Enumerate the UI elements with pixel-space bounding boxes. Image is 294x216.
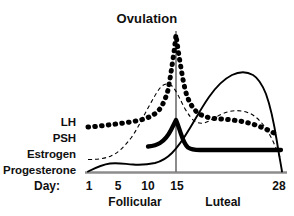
legend-label-lh: LH bbox=[61, 117, 76, 129]
legend-label-estrogen: Estrogen bbox=[27, 149, 76, 161]
x-tick-label-5: 5 bbox=[115, 180, 122, 192]
x-tick-label-10: 10 bbox=[141, 180, 154, 192]
phase-label-luteal: Luteal bbox=[205, 196, 240, 208]
x-tick-label-28: 28 bbox=[272, 180, 285, 192]
legend-label-psh: PSH bbox=[53, 133, 76, 145]
legend-label-progesterone: Progesterone bbox=[3, 165, 76, 177]
phase-label-follicular: Follicular bbox=[108, 196, 161, 208]
x-axis-title: Day: bbox=[34, 180, 60, 192]
series-line-lh bbox=[88, 35, 278, 135]
x-tick-label-1: 1 bbox=[86, 180, 93, 192]
hormone-cycle-chart: Ovulation LH PSH Estrogen Progesterone D… bbox=[0, 0, 294, 216]
ovulation-annotation-label: Ovulation bbox=[0, 12, 294, 25]
x-tick-label-15: 15 bbox=[170, 180, 183, 192]
